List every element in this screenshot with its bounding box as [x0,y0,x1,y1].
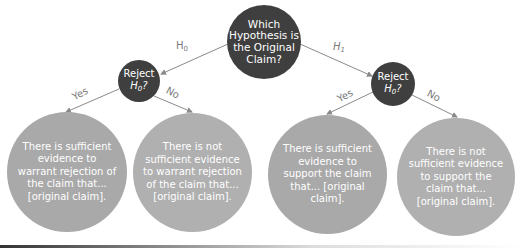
outcome-text-4: There is not sufficient evidence to supp… [397,146,515,209]
edge-label-h0-text: H [176,40,184,51]
decision-right-label: Reject [377,71,408,82]
edge-label-h1: H1 [333,41,345,54]
outcome-node-1: There is sufficient evidence to warrant … [7,112,127,232]
decision-left-h-letter: H [130,80,138,91]
decision-left-label: Reject [123,68,154,79]
decision-left-text: Reject H0? [123,68,154,93]
edge-label-h1-sub: 1 [341,46,345,54]
outcome-text-2: There is not sufficient evidence to warr… [133,141,252,204]
outcome-text-1: There is sufficient evidence to warrant … [7,141,127,204]
decision-right-text: Reject H0? [377,71,408,96]
outcome-node-3: There is sufficient evidence to support … [268,115,387,234]
decision-node-left: Reject H0? [118,60,160,102]
outcome-text-3: There is sufficient evidence to support … [268,143,387,206]
decision-right-h-letter: H [384,83,392,94]
decision-right-q: ? [396,83,401,94]
decision-right-h: H0? [384,83,401,94]
edge-label-h0-sub: 0 [184,45,188,53]
root-question-node: Which Hypothesis is the Original Claim? [227,5,301,79]
outcome-node-4: There is not sufficient evidence to supp… [397,118,515,236]
decision-left-h: H0? [130,80,147,91]
decision-left-q: ? [142,80,147,91]
decision-node-right: Reject H0? [371,62,415,106]
edge-label-h0: H0 [176,40,188,53]
edge-label-h1-text: H [333,41,341,52]
outcome-node-2: There is not sufficient evidence to warr… [133,113,252,232]
root-question-text: Which Hypothesis is the Original Claim? [227,19,301,65]
